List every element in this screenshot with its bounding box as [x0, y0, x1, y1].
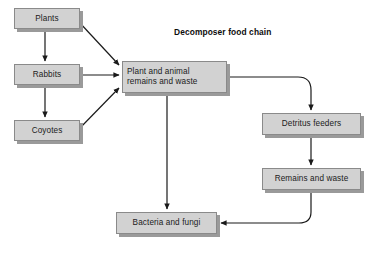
node-plants-label: Plants: [35, 14, 58, 24]
node-remains-and-waste-label: Remains and waste: [275, 174, 349, 184]
chart-title: Decomposer food chain: [174, 27, 272, 37]
edge-remains-to-detritus: [228, 77, 311, 110]
node-bacteria-and-fungi-label: Bacteria and fungi: [133, 218, 201, 228]
edge-coyotes-to-remains: [79, 88, 119, 129]
node-coyotes[interactable]: Coyotes: [14, 120, 80, 141]
node-coyotes-label: Coyotes: [32, 126, 63, 136]
node-remains-and-waste[interactable]: Remains and waste: [262, 168, 361, 190]
node-rabbits-label: Rabbits: [33, 70, 61, 80]
node-detritus-feeders[interactable]: Detritus feeders: [262, 113, 361, 135]
node-plants[interactable]: Plants: [14, 8, 80, 29]
edge-remains-waste-to-bacteria: [221, 191, 311, 223]
node-bacteria-and-fungi[interactable]: Bacteria and fungi: [116, 212, 217, 234]
decomposer-food-chain-diagram: Decomposer food chain Plants Rabbits Coy…: [0, 0, 373, 253]
node-plant-and-animal-remains-label: Plant and animal remains and waste: [127, 67, 197, 87]
node-detritus-feeders-label: Detritus feeders: [282, 119, 341, 129]
node-plant-and-animal-remains[interactable]: Plant and animal remains and waste: [122, 61, 227, 93]
edge-plants-to-remains: [79, 22, 119, 65]
node-rabbits[interactable]: Rabbits: [14, 64, 80, 85]
